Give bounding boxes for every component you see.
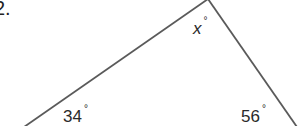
angle-label-bottom-left: 34° <box>63 108 88 125</box>
angle-value: 56 <box>241 107 260 126</box>
angle-label-bottom-right: 56° <box>241 108 266 125</box>
angle-value: 34 <box>63 107 82 126</box>
degree-symbol: ° <box>204 15 208 26</box>
degree-symbol: ° <box>262 103 266 114</box>
degree-symbol: ° <box>84 103 88 114</box>
angle-label-apex: x° <box>193 20 208 37</box>
angle-value: x <box>193 19 202 38</box>
triangle-left-side <box>24 0 208 126</box>
